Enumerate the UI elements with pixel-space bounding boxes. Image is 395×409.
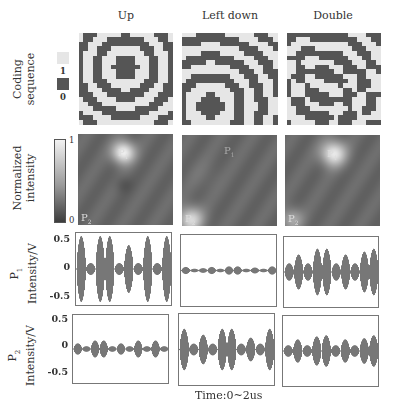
waveform-p1-double [283, 236, 379, 308]
point-label-p1: P1 [118, 147, 129, 160]
heatmap-panel-left-down: P1 P2 [182, 135, 277, 226]
waveform-p2-left-down [178, 313, 275, 386]
point-label-p2: P2 [288, 213, 299, 226]
heatmap-panel-double: P1 P2 [285, 135, 380, 226]
point-label-p2: P2 [81, 212, 92, 225]
p2-ytick-0: 0 [38, 339, 68, 350]
waveform-p1-up [75, 232, 172, 306]
heatmap-panel-up: P1 P2 [78, 134, 173, 225]
colorbar-max: 1 [69, 135, 74, 145]
column-title-left-down: Left down [180, 9, 280, 22]
p2-ytick-neg0.5: -0.5 [38, 366, 68, 377]
colorbar-min: 0 [69, 215, 74, 225]
p1-ytick-0.5: 0.5 [40, 233, 70, 244]
column-title-double: Double [283, 9, 383, 22]
p1-ytick-neg0.5: -0.5 [40, 290, 70, 301]
x-axis-label: Time:0~2us [195, 389, 325, 402]
row-label-coding: Coding sequence [11, 39, 37, 119]
coding-panel-double [287, 33, 381, 125]
p2-ytick-0.5: 0.5 [38, 313, 68, 324]
legend-swatch-one [57, 52, 69, 64]
legend-value-zero: 0 [60, 92, 66, 102]
coding-panel-up [79, 33, 173, 125]
point-label-p1: P1 [224, 145, 235, 158]
p1-ytick-0: 0 [40, 261, 70, 272]
legend-swatch-zero [57, 78, 69, 90]
waveform-p2-up [72, 314, 169, 384]
coding-panel-left-down [182, 33, 278, 125]
waveform-p2-double [282, 315, 379, 387]
row-label-intensity: Normalized intensity [11, 138, 37, 218]
legend-value-one: 1 [60, 66, 66, 76]
column-title-up: Up [76, 9, 176, 22]
row-label-p2: P2 Intensity/V [6, 316, 37, 396]
point-label-p2: P2 [185, 213, 196, 226]
point-label-p1: P1 [327, 148, 338, 161]
colorbar [54, 139, 66, 223]
waveform-p1-left-down [180, 234, 277, 307]
row-label-p1: P1 Intensity/V [8, 234, 39, 314]
